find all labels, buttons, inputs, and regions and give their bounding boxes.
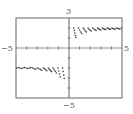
data-point <box>95 30 97 32</box>
data-point <box>74 32 76 34</box>
data-point <box>51 71 53 73</box>
data-point <box>75 35 77 37</box>
data-point <box>119 28 121 30</box>
data-point <box>19 67 21 69</box>
data-point <box>83 27 85 29</box>
data-point <box>114 28 116 30</box>
data-point <box>79 29 81 31</box>
data-point <box>62 71 64 73</box>
data-point <box>110 29 112 31</box>
data-point <box>58 70 60 72</box>
data-point <box>27 68 29 70</box>
data-point <box>105 29 107 31</box>
data-point <box>80 31 82 33</box>
data-point <box>78 27 80 29</box>
x-max-label: 5 <box>124 44 129 53</box>
data-point <box>100 29 102 31</box>
y-min-label: −5 <box>63 101 75 110</box>
data-point <box>52 67 54 69</box>
data-point <box>86 31 88 33</box>
data-point <box>54 70 56 72</box>
data-point <box>22 67 24 69</box>
data-point <box>59 73 61 75</box>
data-point <box>90 30 92 32</box>
data-point <box>38 68 40 70</box>
data-point <box>30 67 32 69</box>
data-point <box>59 76 61 78</box>
data-point <box>63 74 65 76</box>
data-point <box>21 68 23 70</box>
data-point <box>84 29 86 31</box>
data-point <box>50 70 52 72</box>
data-point <box>63 78 65 80</box>
data-point <box>46 70 48 72</box>
data-point <box>73 27 75 29</box>
data-point <box>40 69 42 71</box>
data-point <box>75 37 77 39</box>
data-point <box>32 67 34 69</box>
data-point <box>28 67 30 69</box>
plot-area: −5 5 3 −5 <box>0 0 133 114</box>
data-point <box>17 67 19 69</box>
x-min-label: −5 <box>1 44 13 53</box>
data-point <box>81 33 83 35</box>
data-point <box>49 68 51 70</box>
y-max-label: 3 <box>66 7 71 16</box>
data-point <box>35 68 37 70</box>
data-point <box>33 68 35 70</box>
data-point <box>87 27 89 29</box>
data-point <box>121 27 123 29</box>
data-point <box>24 67 26 69</box>
data-point <box>41 69 43 71</box>
data-point <box>48 67 50 69</box>
data-point <box>53 69 55 71</box>
data-point <box>36 67 38 69</box>
data-point <box>74 30 76 32</box>
data-point <box>55 72 57 74</box>
data-point <box>62 67 64 69</box>
data-point <box>25 67 27 69</box>
data-point <box>57 67 59 69</box>
data-point <box>16 67 18 69</box>
